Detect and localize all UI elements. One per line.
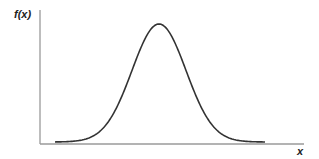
normal-curve-figure xyxy=(0,0,319,159)
y-axis-label: f(x) xyxy=(14,8,31,20)
density-curve xyxy=(55,24,265,142)
x-axis-label: x xyxy=(297,145,303,157)
